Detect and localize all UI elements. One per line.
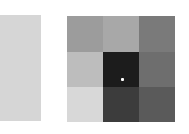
selection-marker-icon (121, 78, 124, 81)
grid-cell-2-0[interactable] (67, 87, 103, 122)
grid-cell-0-1[interactable] (103, 16, 139, 52)
grid-cell-2-2[interactable] (139, 87, 175, 122)
reference-swatch[interactable] (0, 15, 41, 121)
grid-cell-1-0[interactable] (67, 52, 103, 87)
grid-cell-1-2[interactable] (139, 52, 175, 87)
grid-cell-0-0[interactable] (67, 16, 103, 52)
grid-cell-0-2[interactable] (139, 16, 175, 52)
grid-cell-1-1[interactable] (103, 52, 139, 87)
grid-cell-2-1[interactable] (103, 87, 139, 122)
color-grid (67, 16, 175, 122)
